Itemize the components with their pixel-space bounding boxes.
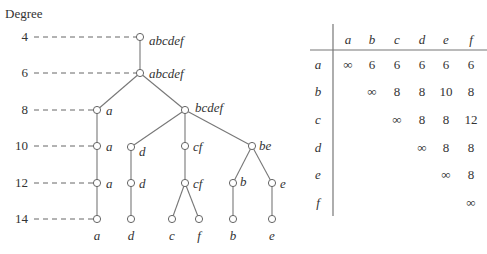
tree-node-label: d [139,176,146,191]
tree-node-label: be [259,138,272,153]
tree-node-marker [168,215,175,222]
tree-node-label: a [94,228,101,243]
matrix-cell: 8 [394,84,401,99]
tree-node-marker [93,215,100,222]
matrix-cell: ∞ [417,140,426,155]
tree-node-marker [136,69,143,76]
tree-node-label: b [230,228,237,243]
tree-node-marker [127,215,134,222]
tree-node-marker [93,179,100,186]
tree-node-label: e [269,228,275,243]
tree-node-label: e [280,176,286,191]
tree-node-label: f [197,228,203,243]
tree-node-label: b [240,174,247,189]
tree-node-marker [181,106,188,113]
tree-edge [97,73,140,110]
matrix-row-header: d [315,140,322,155]
tree-node-marker [136,33,143,40]
matrix-cell: ∞ [392,112,401,127]
matrix-cell: 8 [468,167,475,182]
tree-node-label: a [106,176,113,191]
tree-node-marker [268,179,275,186]
matrix-cell: 12 [465,112,478,127]
matrix-row-header: b [315,84,322,99]
matrix-cell: 6 [443,57,450,72]
dendrogram-figure: Degree 468101214 abcdefabcdefabcdefadcfb… [0,0,487,254]
degree-tick-label: 4 [22,29,29,44]
tree-node-marker [229,215,236,222]
tree-node-marker [181,142,188,149]
tree-node-marker [181,179,188,186]
tree-node-marker [268,215,275,222]
matrix-cell: 8 [419,112,426,127]
matrix-column-header: d [419,32,426,47]
tree-node-label: cf [193,139,205,154]
matrix-cell: ∞ [343,57,352,72]
tree-node-marker [195,215,202,222]
tree-node-marker [248,142,255,149]
matrix-cell: 8 [468,140,475,155]
tree-node-marker [127,179,134,186]
matrix-cell: 6 [419,57,426,72]
matrix-row-header: a [315,57,322,72]
tree-edges [97,37,272,219]
tree-node-label: d [139,144,146,159]
degree-axis-title: Degree [5,6,43,21]
tree-node-label: c [169,228,175,243]
tree-node-marker [127,143,134,150]
tree-node-label: d [128,228,135,243]
tree-nodes: abcdefabcdefabcdefadcfbeadcfbeadcfbe [93,33,286,243]
matrix-cell: ∞ [441,167,450,182]
matrix-cell: 8 [419,84,426,99]
degree-tick-label: 6 [22,65,29,80]
matrix-cell: 8 [443,140,450,155]
degree-axis: 468101214 [15,29,136,226]
tree-node-label: a [106,103,113,118]
distance-matrix: abcdefa∞66666b∞88108c∞8812d∞88e∞8f∞ [310,24,487,216]
matrix-column-header: f [469,32,475,47]
tree-node-label: cf [193,176,205,191]
degree-tick-label: 10 [15,138,28,153]
tree-node-label: bcdef [195,100,226,115]
matrix-row-header: c [315,112,321,127]
tree-edge [172,183,185,219]
degree-tick-label: 12 [15,175,28,190]
matrix-column-header: c [394,32,400,47]
matrix-row-header: e [315,167,321,182]
tree-node-label: a [106,139,113,154]
matrix-cell: 6 [369,57,376,72]
matrix-column-header: a [345,32,352,47]
matrix-cell: ∞ [466,195,475,210]
matrix-cell: 10 [440,84,453,99]
tree-node-marker [93,142,100,149]
degree-tick-label: 8 [22,102,29,117]
tree-node-marker [93,106,100,113]
matrix-cell: ∞ [367,84,376,99]
tree-node-marker [229,179,236,186]
matrix-cell: 6 [468,57,475,72]
matrix-column-header: b [369,32,376,47]
matrix-column-header: e [443,32,449,47]
degree-tick-label: 14 [15,211,29,226]
matrix-cell: 6 [394,57,401,72]
matrix-cell: 8 [468,84,475,99]
tree-node-label: abcdef [149,33,186,48]
tree-node-label: abcdef [149,66,186,81]
matrix-cell: 8 [443,112,450,127]
tree-edge [131,110,185,147]
matrix-row-header: f [316,195,322,210]
